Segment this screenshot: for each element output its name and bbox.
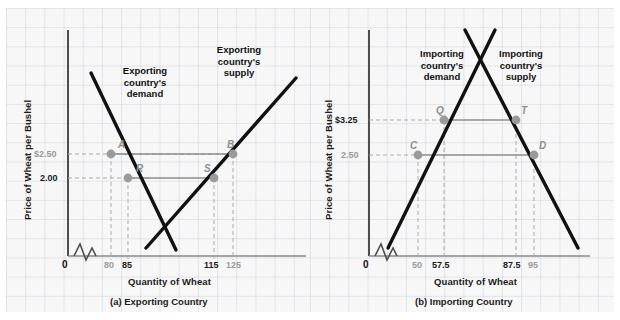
demand-curve-label-line-3: demand	[110, 88, 180, 100]
y-axis-title: Price of Wheat per Bushel	[323, 100, 334, 220]
demand-curve-label-line-3: demand	[408, 71, 476, 83]
panel-importing-country: Price of Wheat per Bushel $3.25 2.50 0 5…	[310, 8, 614, 312]
supply-curve-label-line-3: supply	[204, 67, 274, 79]
x-axis-break-icon	[74, 244, 96, 260]
point-D	[530, 151, 539, 160]
x-tick-95: 95	[528, 260, 538, 270]
panel-a-caption: (a) Exporting Country	[110, 296, 208, 307]
supply-curve-label-line-2: country's	[204, 56, 274, 68]
point-label-C: C	[410, 140, 417, 151]
supply-curve-label: Importing country's supply	[487, 48, 555, 83]
supply-curve-label-line-1: Exporting	[204, 44, 274, 56]
point-label-R: R	[136, 163, 143, 174]
point-Q	[440, 116, 449, 125]
origin-label: 0	[363, 259, 369, 270]
y-tick-250: $2.50	[34, 149, 57, 159]
point-label-D: D	[539, 140, 546, 151]
demand-curve-label: Exporting country's demand	[110, 65, 180, 100]
x-axis-title: Quantity of Wheat	[434, 276, 517, 287]
point-label-S: S	[204, 163, 211, 174]
supply-curve	[146, 78, 296, 248]
point-C	[414, 151, 423, 160]
point-A	[107, 150, 116, 159]
point-T	[512, 116, 521, 125]
point-label-B: B	[227, 139, 234, 150]
panel-b-caption: (b) Importing Country	[415, 296, 513, 307]
point-label-T: T	[521, 105, 527, 116]
demand-curve-label-line-2: country's	[110, 77, 180, 89]
y-tick-325: $3.25	[335, 115, 358, 125]
demand-curve-label: Importing country's demand	[408, 48, 476, 83]
x-tick-575: 57.5	[432, 260, 450, 270]
y-axis-title: Price of Wheat per Bushel	[22, 100, 33, 220]
figure-canvas: Price of Wheat per Bushel $2.50 2.00 0 8…	[0, 0, 620, 320]
supply-curve-label-line-2: country's	[487, 60, 555, 72]
supply-curve-label-line-3: supply	[487, 71, 555, 83]
x-tick-85: 85	[122, 260, 132, 270]
demand-curve-label-line-1: Importing	[408, 48, 476, 60]
y-tick-250: 2.50	[341, 150, 359, 160]
x-axis-title: Quantity of Wheat	[128, 276, 211, 287]
point-label-Q: Q	[436, 105, 444, 116]
supply-curve-label-line-1: Importing	[487, 48, 555, 60]
panel-exporting-country: Price of Wheat per Bushel $2.50 2.00 0 8…	[6, 8, 310, 312]
supply-curve-label: Exporting country's supply	[204, 44, 274, 79]
x-tick-875: 87.5	[503, 260, 521, 270]
point-B	[229, 150, 238, 159]
x-tick-125: 125	[226, 260, 241, 270]
demand-curve-label-line-2: country's	[408, 60, 476, 72]
point-R	[124, 174, 133, 183]
demand-curve	[91, 73, 176, 250]
x-tick-50: 50	[412, 260, 422, 270]
x-tick-115: 115	[204, 260, 219, 270]
point-label-A: A	[118, 139, 125, 150]
x-tick-80: 80	[104, 260, 114, 270]
demand-curve-label-line-1: Exporting	[110, 65, 180, 77]
x-axis-break-icon	[375, 244, 397, 260]
point-S	[210, 174, 219, 183]
y-tick-200: 2.00	[40, 173, 58, 183]
origin-label: 0	[62, 259, 68, 270]
